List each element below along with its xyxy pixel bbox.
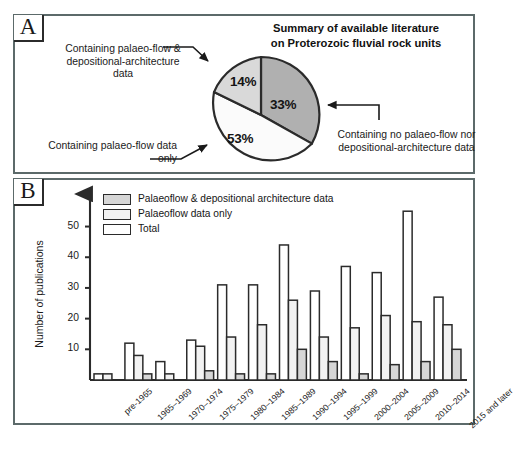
bar-chart-plot-area: 1020304050pre-19651965–19691970–19741975… [15, 180, 477, 427]
bar [350, 328, 359, 380]
bar [187, 340, 196, 380]
pie-value-palaeoflow-only: 53% [227, 131, 253, 146]
annotation-both-data: Containing palaeo-flow & depositional-ar… [57, 43, 189, 81]
bar [390, 365, 399, 380]
bar [341, 266, 350, 380]
bar [94, 374, 103, 380]
bar [297, 349, 306, 380]
bar [103, 374, 112, 380]
pie-chart-svg [201, 55, 321, 175]
bar [134, 355, 143, 380]
pie-chart [201, 55, 321, 175]
y-axis-tick-label: 10 [57, 342, 79, 353]
y-axis-tick-label: 30 [57, 281, 79, 292]
bar [205, 371, 214, 380]
panel-b-bar-chart: B Number of publications Palaeoflow & de… [13, 178, 475, 425]
annotation-palaeoflow-only: Containing palaeo-flow data only [37, 140, 177, 165]
bar [267, 374, 276, 380]
bar [421, 362, 430, 380]
pie-title-line-1: Summary of available literature [247, 21, 465, 36]
pie-value-both-data: 14% [230, 74, 256, 89]
panel-a-pie-chart: A Summary of available literature on Pro… [13, 14, 475, 174]
y-axis-tick-label: 20 [57, 312, 79, 323]
bar [328, 362, 337, 380]
bar [236, 374, 245, 380]
bar [249, 285, 258, 380]
bar-series-group [94, 211, 461, 380]
bar [156, 362, 165, 380]
bar [372, 273, 381, 380]
bar [434, 297, 443, 380]
annotation-no-data: Containing no palaeo-flow nor deposition… [329, 129, 484, 154]
bar [196, 346, 205, 380]
arrow-no-data [328, 105, 379, 120]
bar [143, 374, 152, 380]
bar [359, 374, 368, 380]
bar [443, 325, 452, 380]
pie-chart-title: Summary of available literature on Prote… [247, 21, 465, 50]
y-axis-tick-label: 50 [57, 220, 79, 231]
bar [227, 337, 236, 380]
pie-value-no-data: 33% [270, 97, 296, 112]
panel-a-tag: A [14, 15, 44, 42]
bar [310, 291, 319, 380]
bar [125, 343, 134, 380]
bar [381, 316, 390, 380]
y-axis-tick-label: 40 [57, 250, 79, 261]
bar [403, 211, 412, 380]
bar [165, 374, 174, 380]
bar [452, 349, 461, 380]
pie-title-line-2: on Proterozoic fluvial rock units [247, 36, 465, 51]
bar [319, 337, 328, 380]
bar [412, 322, 421, 380]
bar [280, 245, 289, 380]
bar [218, 285, 227, 380]
bar [258, 325, 267, 380]
bar [288, 300, 297, 380]
